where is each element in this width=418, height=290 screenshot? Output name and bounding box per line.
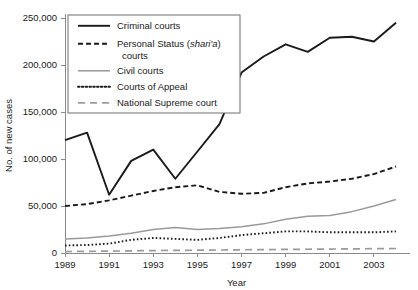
legend-label: Criminal courts (117, 20, 181, 31)
x-axis-title: Year (227, 277, 246, 288)
x-tick-label: 1995 (187, 259, 208, 270)
chart-container: 050,000100,000150,000200,000250,000 1989… (0, 0, 418, 290)
y-tick-label: 50,000 (28, 200, 57, 211)
legend-label: Civil courts (117, 65, 164, 76)
x-tick-label: 2001 (319, 259, 340, 270)
y-tick-label: 200,000 (23, 59, 57, 70)
y-tick-label: 0 (52, 247, 57, 258)
y-axis-title: No. of new cases (3, 99, 14, 172)
legend-label: Personal Status (shari'a) (117, 38, 221, 49)
x-tick-label: 1999 (275, 259, 296, 270)
x-tick-label: 1989 (54, 259, 75, 270)
y-tick-label: 250,000 (23, 12, 57, 23)
x-tick-label: 1997 (231, 259, 252, 270)
x-tick-label: 2003 (363, 259, 384, 270)
legend-label: Courts of Appeal (117, 81, 187, 92)
chart-legend: Criminal courtscourtsPersonal Status (sh… (68, 15, 240, 113)
legend-label: National Supreme court (117, 97, 217, 108)
x-tick-label: 1991 (99, 259, 120, 270)
legend-label-continued: courts (122, 50, 148, 61)
x-tick-label: 1993 (143, 259, 164, 270)
line-chart: 050,000100,000150,000200,000250,000 1989… (0, 0, 418, 290)
y-tick-label: 100,000 (23, 153, 57, 164)
y-tick-label: 150,000 (23, 106, 57, 117)
